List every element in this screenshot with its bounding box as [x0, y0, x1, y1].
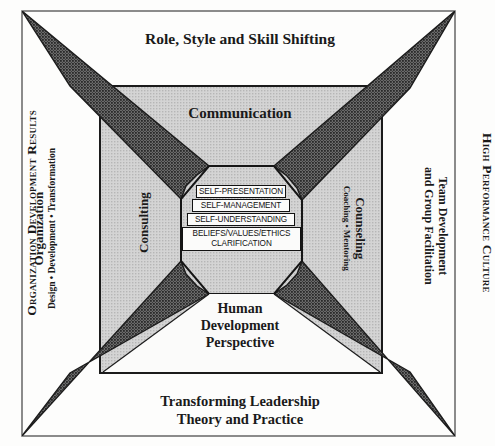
label-hdp-line3: Perspective: [0, 334, 480, 351]
label-hdp-line1: Human: [0, 300, 480, 317]
label-consulting: Consulting: [136, 163, 151, 283]
core-box-beliefs-line2: CLARIFICATION: [211, 239, 271, 249]
label-organization-block: Organization Design • Development • Tran…: [31, 139, 58, 319]
label-hdp-line2: Development: [0, 317, 480, 334]
core-box-beliefs-values-ethics: BELIEFS/VALUES/ETHICS CLARIFICATION: [182, 227, 301, 251]
label-transforming-line1: Transforming Leadership: [0, 393, 480, 411]
label-team-development-line2: and Group Facilitation: [421, 136, 435, 316]
label-coaching-mentoring: Coaching • Mentoring: [342, 168, 352, 288]
label-transforming-leadership: Transforming Leadership Theory and Pract…: [0, 393, 480, 428]
label-communication: Communication: [0, 105, 480, 122]
core-box-self-understanding: SELF-UNDERSTANDING: [187, 213, 295, 226]
label-organization-subtitle: Design • Development • Transformation: [48, 139, 59, 319]
core-box-self-management: SELF-MANAGEMENT: [192, 199, 290, 212]
label-counseling: Counseling: [353, 168, 368, 288]
label-organization-title: Organization: [31, 139, 46, 319]
core-box-beliefs-line1: BELIEFS/VALUES/ETHICS: [193, 229, 291, 239]
label-team-development-line1: Team Development: [435, 136, 449, 316]
label-role-style-skill-shifting: Role, Style and Skill Shifting: [0, 30, 480, 48]
label-team-development-block: Team Development and Group Facilitation: [421, 136, 449, 316]
label-human-development-perspective: Human Development Perspective: [0, 300, 480, 351]
label-transforming-line2: Theory and Practice: [0, 411, 480, 429]
label-high-performance-culture: High Performance Culture: [479, 63, 495, 363]
core-box-self-presentation: SELF-PRESENTATION: [196, 185, 286, 198]
label-counseling-block: Counseling Coaching • Mentoring: [342, 168, 369, 288]
